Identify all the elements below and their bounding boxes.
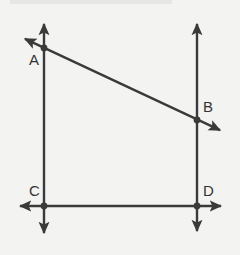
vertex-label-c: C [29,183,40,198]
geometry-diagram: A B C D [0,0,240,255]
vertex-point-C [41,203,48,210]
vertex-point-B [194,117,201,124]
vertex-label-b: B [203,99,213,114]
vertex-label-d: D [203,183,214,198]
line-AB [25,39,220,130]
figure-canvas [0,0,240,255]
vertex-point-D [194,203,201,210]
vertex-point-A [41,45,48,52]
vertex-label-a: A [29,52,39,67]
